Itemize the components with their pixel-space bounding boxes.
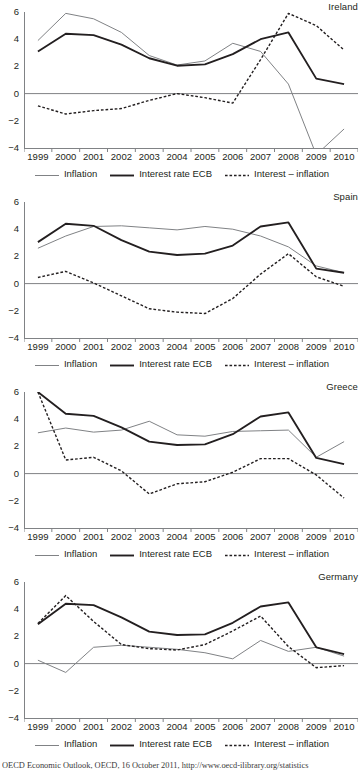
plot-area-ireland xyxy=(24,12,358,148)
legend-item: Inflation xyxy=(35,358,97,369)
x-tick-label: 2005 xyxy=(194,341,215,352)
plot-area-spain xyxy=(24,202,358,338)
y-tick-label: 2 xyxy=(14,441,19,451)
x-tick-label: 2002 xyxy=(111,721,132,732)
x-tick-label: 1999 xyxy=(27,341,48,352)
y-tick-label: 4 xyxy=(14,224,19,234)
x-tick-label: 2007 xyxy=(250,151,271,162)
x-tick-label: 2004 xyxy=(167,151,188,162)
x-tick-label: 2008 xyxy=(278,531,299,542)
legend-label: Interest – inflation xyxy=(254,548,329,559)
x-tick-label: 2008 xyxy=(278,721,299,732)
x-tick-label: 2002 xyxy=(111,531,132,542)
source-note: OECD Economic Outlook, OECD, 16 October … xyxy=(2,761,364,771)
legend-swatch-solid-thin xyxy=(35,740,59,747)
plot-area-greece xyxy=(24,392,358,528)
y-tick-label: 6 xyxy=(14,7,19,17)
legend-greece: InflationInterest rate ECBInterest – inf… xyxy=(0,548,364,559)
panel-title-spain: Spain xyxy=(333,191,358,202)
x-tick-label: 2007 xyxy=(250,531,271,542)
x-tick-label: 2001 xyxy=(83,341,104,352)
series-line-interest-rate-ecb xyxy=(38,392,344,464)
legend-label: Inflation xyxy=(64,168,97,179)
panel-title-ireland: Ireland xyxy=(328,1,358,12)
legend-swatch-solid-thick xyxy=(110,170,134,177)
x-tick-label: 2006 xyxy=(222,341,243,352)
x-tick-label: 2004 xyxy=(167,721,188,732)
y-tick-label: 6 xyxy=(14,387,19,397)
legend-item: Interest – inflation xyxy=(225,738,329,749)
series-line-interest-rate-ecb xyxy=(38,32,344,84)
x-tick-label: 2010 xyxy=(334,721,355,732)
x-tick-label: 2009 xyxy=(306,341,327,352)
x-tick-label: 2005 xyxy=(194,721,215,732)
legend-swatch-dotted xyxy=(225,360,249,367)
inflation-interest-rate-figure: Ireland 6420−2−4 19992000200120022003200… xyxy=(0,0,364,771)
x-tick-label: 2009 xyxy=(306,721,327,732)
series-line-interest-rate-ecb xyxy=(38,602,344,654)
x-tick-label: 1999 xyxy=(27,721,48,732)
x-tick-label: 2002 xyxy=(111,341,132,352)
x-tick-label: 2006 xyxy=(222,531,243,542)
y-tick-label: 4 xyxy=(14,604,19,614)
chart-panel-spain: Spain 6420−2−4 1999200020012002200320042… xyxy=(0,190,364,380)
x-tick-label: 2000 xyxy=(55,531,76,542)
x-tick-label: 2010 xyxy=(334,341,355,352)
x-tick-label: 1999 xyxy=(27,531,48,542)
y-tick-label: −4 xyxy=(8,713,19,723)
chart-panel-germany: Germany 6420−2−4 19992000200120022003200… xyxy=(0,570,364,771)
legend-label: Interest rate ECB xyxy=(139,738,212,749)
legend-label: Inflation xyxy=(64,358,97,369)
y-tick-label: −2 xyxy=(8,116,19,126)
legend-swatch-solid-thick xyxy=(110,550,134,557)
x-tick-label: 2008 xyxy=(278,151,299,162)
x-tick-label: 2004 xyxy=(167,531,188,542)
y-tick-label: 6 xyxy=(14,577,19,587)
x-tick-label: 2003 xyxy=(139,341,160,352)
legend-label: Interest rate ECB xyxy=(139,358,212,369)
legend-germany: InflationInterest rate ECBInterest – inf… xyxy=(0,738,364,749)
series-line-inflation xyxy=(38,226,344,273)
plot-area-germany xyxy=(24,582,358,718)
x-tick-label: 2007 xyxy=(250,721,271,732)
x-tick-label: 2010 xyxy=(334,531,355,542)
x-tick-label: 2000 xyxy=(55,151,76,162)
x-tick-label: 2009 xyxy=(306,151,327,162)
legend-swatch-dotted xyxy=(225,550,249,557)
y-axis-labels-ireland: 6420−2−4 xyxy=(0,0,24,160)
legend-item: Interest rate ECB xyxy=(110,168,212,179)
y-tick-label: 2 xyxy=(14,61,19,71)
panel-title-greece: Greece xyxy=(326,381,358,392)
legend-item: Interest – inflation xyxy=(225,548,329,559)
legend-item: Interest rate ECB xyxy=(110,738,212,749)
legend-swatch-solid-thin xyxy=(35,360,59,367)
x-tick-label: 2004 xyxy=(167,341,188,352)
legend-swatch-dotted xyxy=(225,170,249,177)
chart-panel-ireland: Ireland 6420−2−4 19992000200120022003200… xyxy=(0,0,364,190)
series-line-inflation xyxy=(38,640,344,672)
x-tick-label: 2000 xyxy=(55,721,76,732)
legend-label: Interest rate ECB xyxy=(139,168,212,179)
y-tick-label: 2 xyxy=(14,631,19,641)
legend-spain: InflationInterest rate ECBInterest – inf… xyxy=(0,358,364,369)
x-tick-label: 2006 xyxy=(222,151,243,162)
y-tick-label: −2 xyxy=(8,686,19,696)
x-tick-label: 2003 xyxy=(139,721,160,732)
legend-label: Interest – inflation xyxy=(254,168,329,179)
y-axis-labels-greece: 6420−2−4 xyxy=(0,380,24,540)
legend-item: Inflation xyxy=(35,168,97,179)
legend-label: Inflation xyxy=(64,738,97,749)
y-tick-label: 2 xyxy=(14,251,19,261)
series-line-interest-minus-inflation xyxy=(38,13,344,114)
legend-item: Inflation xyxy=(35,738,97,749)
legend-item: Inflation xyxy=(35,548,97,559)
y-tick-label: 0 xyxy=(14,279,19,289)
x-tick-label: 2005 xyxy=(194,151,215,162)
chart-panel-greece: Greece 6420−2−4 199920002001200220032004… xyxy=(0,380,364,570)
legend-item: Interest rate ECB xyxy=(110,548,212,559)
y-axis-labels-spain: 6420−2−4 xyxy=(0,190,24,350)
x-tick-label: 2001 xyxy=(83,721,104,732)
y-tick-label: −4 xyxy=(8,523,19,533)
x-tick-label: 2000 xyxy=(55,341,76,352)
x-tick-label: 2007 xyxy=(250,341,271,352)
